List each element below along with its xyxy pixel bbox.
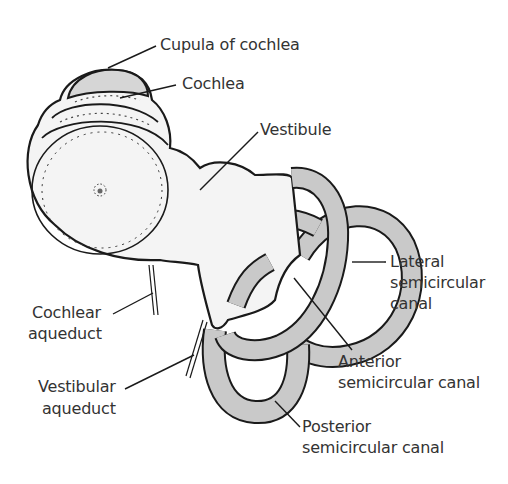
label-vestibular-aqueduct-line2: aqueduct [42, 399, 116, 419]
label-cochlear-aqueduct-line1: Cochlear [32, 303, 101, 323]
label-anterior-canal-line2: semicircular canal [338, 373, 480, 393]
label-lateral-canal-line3: canal [390, 294, 432, 314]
cochlear-aqueduct-tube [149, 265, 158, 315]
label-vestibular-aqueduct-line1: Vestibular [38, 377, 116, 397]
labyrinth-diagram: Cupula of cochlea Cochlea Vestibule Late… [0, 0, 508, 484]
label-posterior-canal-line1: Posterior [302, 417, 371, 437]
label-vestibule: Vestibule [260, 120, 331, 140]
label-lateral-canal-line1: Lateral [390, 252, 444, 272]
label-cupula-of-cochlea: Cupula of cochlea [160, 35, 300, 55]
label-lateral-canal-line2: semicircular [390, 273, 485, 293]
label-anterior-canal-line1: Anterior [338, 352, 401, 372]
label-cochlea: Cochlea [182, 74, 245, 94]
cochlea-vestibule-body [28, 70, 300, 329]
label-cochlear-aqueduct-line2: aqueduct [28, 324, 102, 344]
label-posterior-canal-line2: semicircular canal [302, 438, 444, 458]
